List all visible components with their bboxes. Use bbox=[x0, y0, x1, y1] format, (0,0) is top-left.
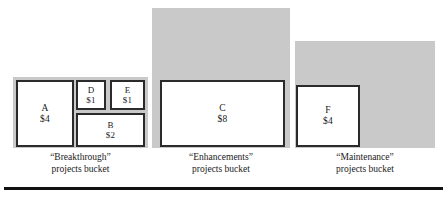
project-box-a: A$4 bbox=[16, 80, 74, 147]
project-label-f: F bbox=[325, 105, 330, 116]
project-box-e: E$1 bbox=[110, 80, 145, 110]
bucket-caption-breakthrough: “Breakthrough”projects bucket bbox=[13, 151, 148, 175]
project-label-e: E bbox=[125, 85, 131, 95]
bucket-caption-maintenance: “Maintenance”projects bucket bbox=[295, 151, 435, 175]
project-label-d: D bbox=[88, 85, 95, 95]
project-value-f: $4 bbox=[323, 116, 333, 127]
bucket-caption-subtitle-enhancements: projects bucket bbox=[152, 163, 290, 175]
bucket-caption-subtitle-breakthrough: projects bucket bbox=[13, 163, 148, 175]
project-label-c: C bbox=[219, 103, 226, 114]
bucket-caption-title-breakthrough: “Breakthrough” bbox=[13, 151, 148, 163]
bucket-caption-subtitle-maintenance: projects bucket bbox=[295, 163, 435, 175]
project-box-f: F$4 bbox=[296, 85, 360, 147]
project-value-a: $4 bbox=[40, 114, 50, 125]
diagram-canvas: A$4D$1E$1B$2“Breakthrough”projects bucke… bbox=[0, 0, 447, 201]
project-label-a: A bbox=[41, 103, 48, 114]
project-value-d: $1 bbox=[86, 95, 95, 105]
project-box-b: B$2 bbox=[76, 113, 145, 147]
bucket-caption-title-enhancements: “Enhancements” bbox=[152, 151, 290, 163]
project-box-d: D$1 bbox=[76, 80, 106, 110]
project-label-b: B bbox=[107, 120, 113, 130]
project-value-b: $2 bbox=[106, 130, 115, 140]
bucket-caption-enhancements: “Enhancements”projects bucket bbox=[152, 151, 290, 175]
bucket-caption-title-maintenance: “Maintenance” bbox=[295, 151, 435, 163]
bottom-rule bbox=[4, 187, 443, 190]
project-box-c: C$8 bbox=[160, 80, 285, 147]
project-value-e: $1 bbox=[123, 95, 132, 105]
project-value-c: $8 bbox=[218, 114, 228, 125]
